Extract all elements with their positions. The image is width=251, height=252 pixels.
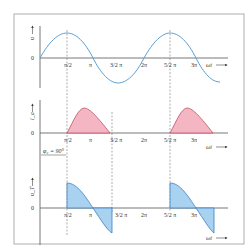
origin-label: 0	[31, 55, 34, 61]
tick-three-pi: 3π	[191, 62, 197, 68]
x-axis-label-wt: ωt	[206, 144, 212, 150]
y-axis-label-u: u	[29, 37, 35, 40]
tick-five-half-pi: 5/2 π	[164, 212, 176, 218]
tick-three-half-pi: 3/2 π	[110, 62, 122, 68]
origin-label: 0	[31, 130, 34, 136]
tick-pi: π	[89, 212, 92, 218]
x-axis-label-wt: ωt	[206, 235, 212, 241]
tick-two-pi: 2π	[141, 137, 147, 143]
tick-half-pi: π/2	[64, 212, 72, 218]
tick-two-pi: 2π	[141, 212, 147, 218]
tick-three-pi: 3π	[191, 212, 197, 218]
tick-five-half-pi: 5/2 π	[164, 62, 176, 68]
tick-pi: π	[89, 62, 92, 68]
origin-label: 0	[31, 205, 34, 211]
y-axis-label-ia: i_a	[29, 112, 35, 120]
phase-angle-label: φ₂ = 90°	[43, 148, 64, 154]
tick-half-pi: π/2	[64, 137, 72, 143]
tick-three-half-pi: 3/2 π	[110, 137, 122, 143]
phase-control-diagram: 0 u π/2 π 3/2 π 2π 5/2 π 3π ωt 0 i_a π/2…	[0, 0, 251, 252]
tick-five-half-pi: 5/2 π	[164, 137, 176, 143]
tick-two-pi: 2π	[141, 62, 147, 68]
tick-half-pi: π/2	[64, 62, 72, 68]
tick-pi: π	[89, 137, 92, 143]
y-axis-label-ut: u_T	[29, 186, 35, 196]
x-axis-label-wt: ωt	[206, 62, 212, 68]
tick-three-pi: 3π	[191, 137, 197, 143]
tick-three-half-pi: 3/2 π	[115, 212, 127, 218]
